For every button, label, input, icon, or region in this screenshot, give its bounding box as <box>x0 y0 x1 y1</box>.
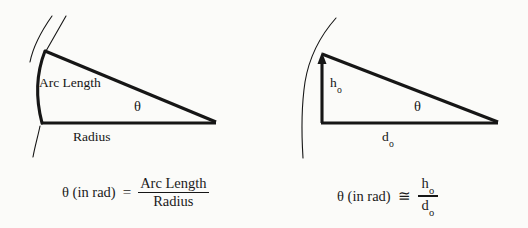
height-label-base: h <box>330 75 337 90</box>
physics-figure: Arc Length Radius θ ho do θ θ (in rad) =… <box>0 0 528 228</box>
distance-label-subscript: o <box>389 138 394 149</box>
formula-left-denominator: Radius <box>151 193 195 209</box>
formula-right-relation: ≅ <box>398 189 411 204</box>
formula-left-numerator: Arc Length <box>138 176 208 192</box>
formula-right-denominator-base: d <box>421 197 428 213</box>
radian-definition-formula: θ (in rad) = Arc Length Radius <box>62 176 209 208</box>
arc-extension-bottom-icon <box>33 126 40 157</box>
distance-label: do <box>382 130 394 146</box>
small-angle-approximation-formula: θ (in rad) ≅ ho do <box>337 176 438 216</box>
formula-right-lhs: θ (in rad) <box>337 189 391 204</box>
formula-left-lhs: θ (in rad) <box>62 185 116 200</box>
arc-length-label: Arc Length <box>39 76 101 90</box>
distance-label-base: d <box>382 129 389 144</box>
radius-label: Radius <box>73 130 111 144</box>
formula-right-numerator-subscript: o <box>429 185 434 196</box>
formula-right-denominator: do <box>419 197 435 216</box>
formula-right-denominator-subscript: o <box>429 207 434 218</box>
formula-left-fraction: Arc Length Radius <box>138 176 208 208</box>
formula-right-fraction: ho do <box>418 176 438 216</box>
height-label-subscript: o <box>337 84 342 95</box>
theta-label-right: θ <box>414 99 421 114</box>
hypotenuse-line-icon <box>322 54 498 122</box>
height-label: ho <box>330 76 342 92</box>
theta-label-left: θ <box>134 99 141 114</box>
formula-right-numerator-base: h <box>421 175 428 191</box>
formula-left-relation: = <box>123 185 131 200</box>
formula-right-numerator: ho <box>419 176 435 195</box>
arc-extension-top-icon <box>30 16 52 62</box>
